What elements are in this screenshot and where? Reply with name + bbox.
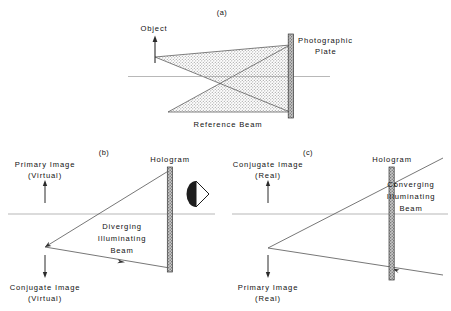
- reference-beam-label: Reference Beam: [194, 120, 263, 131]
- object-label: Object: [140, 24, 167, 35]
- panel-b-conjugate-arrow-head: [43, 272, 47, 278]
- panel-a-graphics: [128, 34, 330, 118]
- photographic-plate: [288, 34, 293, 118]
- panel-c-beam-label-line3: Beam: [399, 204, 422, 215]
- photographic-plate-label-line2: Plate: [315, 47, 337, 58]
- panel-b-tag: (b): [99, 148, 110, 157]
- panel-b-primary-image-label-line1: Primary Image: [15, 160, 75, 171]
- eye-pupil: [187, 181, 197, 207]
- panel-c-conjugate-image-label-line2: (Real): [255, 171, 281, 182]
- panel-c-primary-arrow-head: [266, 272, 270, 278]
- photographic-plate-label-line1: Photographic: [298, 36, 353, 47]
- panel-b-conjugate-image-label-line1: Conjugate Image: [10, 283, 81, 294]
- panel-b-conjugate-image-label-line2: (Virtual): [28, 294, 62, 305]
- panel-b-primary-image-label-line2: (Virtual): [28, 171, 62, 182]
- panel-b-beam-label-line2: Illuminating: [98, 234, 147, 245]
- panel-c-upper-ray: [268, 158, 443, 248]
- eye-triangle: [196, 181, 209, 207]
- panel-b-lower-ray: [45, 247, 170, 268]
- holography-figure: (a) Object Photographic Plate Reference …: [0, 0, 451, 311]
- panel-c-tag: (c): [303, 148, 313, 157]
- panel-c-beam-label-line2: Illuminating: [387, 192, 436, 203]
- panel-b-hologram-label: Hologram: [150, 155, 190, 166]
- panel-b-hologram: [167, 167, 172, 272]
- panel-c-lower-ray: [268, 248, 443, 275]
- panel-c-primary-image-label-line1: Primary Image: [238, 283, 298, 294]
- panel-c-hologram-label: Hologram: [372, 155, 412, 166]
- panel-b-beam-label-line1: Diverging: [102, 222, 142, 233]
- panel-a-tag: (a): [217, 8, 228, 17]
- panel-b-beam-label-line3: Beam: [110, 246, 133, 257]
- panel-c-beam-label-line1: Converging: [387, 180, 434, 191]
- object-arrow-head: [153, 36, 158, 43]
- panel-c-conjugate-image-label-line1: Conjugate Image: [233, 160, 304, 171]
- panel-c-primary-image-label-line2: (Real): [255, 294, 281, 305]
